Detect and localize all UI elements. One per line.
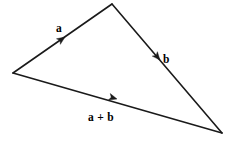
vector-a-group: a	[13, 4, 112, 73]
vector-a-plus-b-label: a + b	[88, 111, 114, 123]
vector-b-group: b	[112, 4, 222, 133]
vector-b-line	[112, 4, 222, 133]
vector-a-plus-b-line	[13, 73, 222, 133]
vector-diagram-canvas: a b a + b	[0, 0, 233, 141]
vector-b-label: b	[163, 53, 169, 65]
vector-a-label: a	[56, 22, 62, 34]
vector-a-plus-b-group: a + b	[13, 73, 222, 133]
vector-addition-figure: a b a + b	[0, 0, 233, 141]
